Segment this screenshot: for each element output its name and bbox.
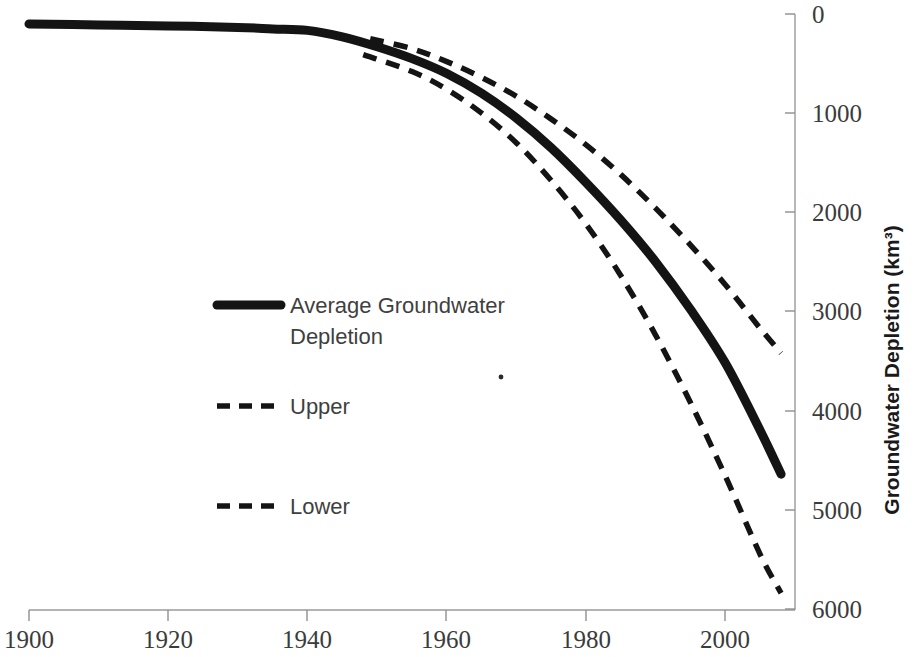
- x-axis: 1900 1920 1940 1960 1980 2000: [4, 610, 795, 653]
- groundwater-depletion-line-chart: 1900 1920 1940 1960 1980 2000 0 1000 200…: [0, 0, 918, 657]
- x-tick-label-2000: 2000: [700, 626, 750, 653]
- legend-label-average-line1: Average Groundwater: [290, 293, 505, 318]
- legend-label-average-line2: Depletion: [290, 324, 383, 349]
- scan-speck: [499, 375, 504, 380]
- legend-label-lower: Lower: [290, 494, 350, 519]
- y-tick-label-3000: 3000: [812, 298, 862, 325]
- y-tick-label-1000: 1000: [812, 100, 862, 127]
- y-tick-label-4000: 4000: [812, 398, 862, 425]
- x-tick-label-1920: 1920: [143, 626, 193, 653]
- series-average-line: [29, 24, 781, 474]
- x-tick-label-1900: 1900: [4, 626, 54, 653]
- x-tick-label-1960: 1960: [421, 626, 471, 653]
- y-tick-label-5000: 5000: [812, 497, 862, 524]
- y-tick-label-0: 0: [812, 1, 825, 28]
- x-tick-label-1980: 1980: [561, 626, 611, 653]
- legend-label-upper: Upper: [290, 394, 350, 419]
- y-tick-label-6000: 6000: [812, 596, 862, 623]
- y-axis-title: Groundwater Depletion (km³): [880, 225, 903, 514]
- x-tick-label-1940: 1940: [282, 626, 332, 653]
- chart-legend: Average Groundwater Depletion Upper Lowe…: [217, 293, 505, 519]
- y-tick-label-2000: 2000: [812, 199, 862, 226]
- chart-container: 1900 1920 1940 1960 1980 2000 0 1000 200…: [0, 0, 918, 657]
- y-axis: 0 1000 2000 3000 4000 5000 6000 Groundwa…: [785, 1, 903, 623]
